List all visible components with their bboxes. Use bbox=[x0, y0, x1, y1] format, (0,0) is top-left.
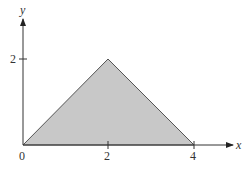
x-tick-label-0: 0 bbox=[19, 149, 25, 163]
x-tick-label-2: 2 bbox=[104, 149, 110, 163]
x-axis-label: x bbox=[235, 138, 242, 152]
y-tick-label-2: 2 bbox=[10, 52, 16, 66]
x-tick-label-4: 4 bbox=[190, 149, 196, 163]
triangle-diagram: 0 2 4 2 x y bbox=[0, 0, 251, 172]
shaded-triangle bbox=[23, 59, 194, 145]
y-axis-label: y bbox=[19, 3, 26, 17]
